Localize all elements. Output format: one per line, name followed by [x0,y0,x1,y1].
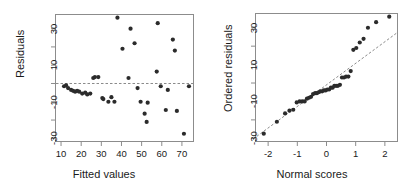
y-tick-label: 10 [248,52,259,78]
data-point [171,38,175,42]
plot-canvas-right [208,0,416,189]
x-tick-label: -2 [256,148,280,159]
data-point [291,108,295,112]
data-point [283,111,287,115]
data-point [88,91,92,95]
data-point [262,132,266,136]
x-tick-label: 0 [315,148,339,159]
y-tick-label: 30 [248,15,259,41]
plot-frame [56,15,194,142]
y-axis-title-left: Residuals [14,30,26,78]
x-tick-label: 1 [344,148,368,159]
data-point [275,120,279,124]
data-point [366,26,370,30]
data-point [112,100,116,104]
data-point [374,20,378,24]
data-point [175,109,179,113]
data-point [143,112,147,116]
panel-residuals-vs-fitted: Fitted values Residuals 10203040506070-3… [0,0,208,189]
y-tick-label: 30 [48,16,59,42]
data-point [164,108,168,112]
x-tick-label: -1 [285,148,309,159]
data-point [173,48,177,52]
y-tick-label: -10 [248,88,259,114]
data-point [182,132,186,136]
data-point [287,109,291,113]
figure-two-panel-diagnostics: Fitted values Residuals 10203040506070-3… [0,0,416,189]
data-point [156,21,160,25]
data-point [101,97,105,101]
data-point [361,37,365,41]
plot-canvas-left [0,0,208,189]
data-point [187,84,191,88]
data-point-series [262,15,392,136]
data-point [146,101,150,105]
x-tick-label: 70 [170,148,194,159]
data-point [109,95,113,99]
data-point [338,83,342,87]
data-point [132,41,136,45]
data-point [126,76,130,80]
y-tick-label: -30 [48,125,59,151]
data-point [166,88,170,92]
panel-normal-qq: Normal scores Ordered residuals -2-1012-… [208,0,416,189]
data-point [128,27,132,31]
data-point [106,100,110,104]
data-point [155,70,159,74]
data-point [135,86,139,90]
y-tick-label: -10 [48,89,59,115]
data-point [139,100,143,104]
data-point [145,120,149,124]
data-point [96,75,100,79]
data-point [387,15,391,19]
y-tick-label: -30 [248,125,259,151]
data-point [115,16,119,20]
y-axis-title-right: Ordered residuals [222,25,234,112]
x-tick-label: 2 [373,148,397,159]
data-point [349,69,353,73]
data-point-series [62,16,191,136]
x-axis-title-right: Normal scores [208,168,416,180]
data-point [354,46,358,50]
data-point [120,47,124,51]
data-point [358,40,362,44]
x-axis-title-left: Fitted values [0,168,208,180]
data-point [346,74,350,78]
y-tick-label: 10 [48,52,59,78]
data-point [159,84,163,88]
